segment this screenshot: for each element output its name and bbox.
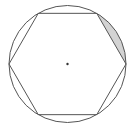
hexagon-in-circle-figure	[0, 0, 134, 132]
center-point	[66, 63, 68, 65]
geometry-diagram	[0, 0, 134, 132]
